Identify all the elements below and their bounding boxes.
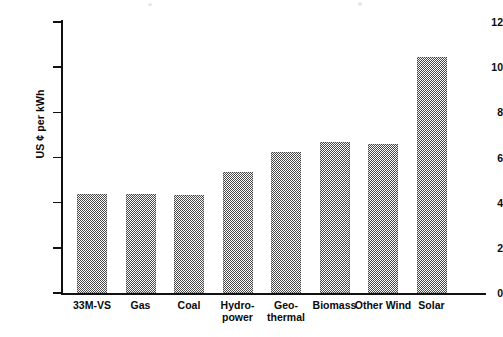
y-axis-tick xyxy=(53,112,62,114)
bar xyxy=(320,142,350,293)
y-axis-tick xyxy=(53,292,62,294)
x-axis-label-line: thermal xyxy=(248,312,324,324)
x-axis-line xyxy=(61,293,486,295)
bar xyxy=(174,195,204,293)
x-axis-label-line: Solar xyxy=(394,300,470,312)
bar xyxy=(223,172,253,293)
x-axis-label: Solar xyxy=(394,300,470,312)
bar xyxy=(271,152,301,293)
bar-chart-figure: US ¢ per kWh 024681012 33M-VSGasCoalHydr… xyxy=(0,0,503,337)
y-axis-tick xyxy=(53,157,62,159)
bar xyxy=(368,144,398,293)
bar xyxy=(77,194,107,293)
y-axis-tick xyxy=(53,66,62,68)
bar xyxy=(417,57,447,293)
y-axis-tick xyxy=(53,202,62,204)
scan-speckle xyxy=(358,2,362,6)
y-axis-tick xyxy=(53,247,62,249)
y-axis-tick xyxy=(53,21,62,23)
plot-area xyxy=(62,22,486,293)
scan-speckle xyxy=(148,3,152,6)
bar xyxy=(126,194,156,293)
y-axis-title: US ¢ per kWh xyxy=(34,54,46,194)
